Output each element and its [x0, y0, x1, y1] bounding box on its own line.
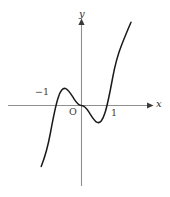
y-axis-label: y — [79, 9, 85, 19]
x-axis-arrowhead — [147, 102, 154, 108]
graph-canvas — [0, 0, 170, 197]
y-axis — [78, 19, 84, 187]
cubic-curve — [41, 22, 131, 166]
y-axis-arrowhead — [78, 19, 84, 26]
origin-label: O — [69, 107, 77, 117]
x-axis-label: x — [156, 99, 162, 109]
x-tick-label-one: 1 — [111, 108, 117, 118]
cubic-graph-figure: y x −1 O 1 — [0, 0, 170, 197]
x-tick-label-negative-one: −1 — [35, 87, 49, 97]
